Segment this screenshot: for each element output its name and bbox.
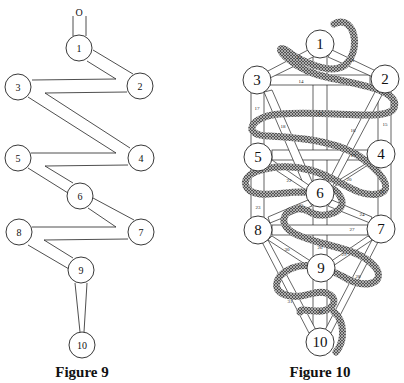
figure-9-sephirah-label: 3 <box>16 82 21 93</box>
figure-9-sephirah-label: 9 <box>79 265 84 276</box>
figure-10-sephirah-label: 10 <box>313 334 328 350</box>
path-number-label: 28 <box>356 274 362 279</box>
figure-9-lightning-flash <box>28 16 134 332</box>
path-number-label: 21 <box>380 189 386 194</box>
path-number-label: 19 <box>351 153 357 158</box>
path-number-label: 14 <box>299 79 305 84</box>
figure-9-sephirah-label: 7 <box>139 227 144 238</box>
figure-10-sephirah-label: 9 <box>317 260 325 276</box>
path-number-label: 18 <box>281 124 287 129</box>
path-number-label: 32 <box>318 309 324 314</box>
figure-10-sephirah-label: 2 <box>381 71 389 87</box>
path-number-label: 31 <box>288 299 294 304</box>
path-number-label: 16 <box>351 128 357 133</box>
figure-9-sephirah-label: 5 <box>16 153 21 164</box>
path-number-label: 29 <box>342 252 348 257</box>
figure-10-sephirah-label: 3 <box>253 72 261 88</box>
path-number-label: 27 <box>350 227 356 232</box>
path-number-label: 15 <box>383 122 389 127</box>
figure-10-sephirah-label: 7 <box>377 221 385 237</box>
path-number-label: 23 <box>256 205 262 210</box>
figure-9-sephirah-label: 10 <box>77 340 87 351</box>
figure-10-sephirah-label: 1 <box>316 36 324 52</box>
diagram-canvas: O 12345678910 12345678910 11121314151617… <box>0 0 404 383</box>
figure-9-sephirah-label: 4 <box>139 153 144 164</box>
figure-9-sephirah-label: 8 <box>17 227 22 238</box>
path-number-label: 25 <box>299 203 305 208</box>
path-number-label: 22 <box>287 178 293 183</box>
figure-9-sephirah-label: 6 <box>78 191 83 202</box>
path-number-label: 11 <box>350 58 355 63</box>
path-number-label: 13 <box>318 111 324 116</box>
figure-9-top-label: O <box>75 7 82 18</box>
figure-10-caption: Figure 10 <box>290 364 351 381</box>
path-number-label: 17 <box>255 106 261 111</box>
path-number-label: 30 <box>285 247 291 252</box>
path-number-label: 26 <box>318 245 324 250</box>
figure-10-sephirah-label: 4 <box>377 146 385 162</box>
figure-9-sephirah-label: 2 <box>138 81 143 92</box>
path-number-label: 12 <box>297 55 303 60</box>
path-number-label: 24 <box>360 212 366 217</box>
figure-10-sephirah-label: 6 <box>316 185 324 201</box>
figure-9-caption: Figure 9 <box>55 364 108 381</box>
path-number-label: 20 <box>347 177 353 182</box>
figure-9-nodes: 12345678910 <box>5 35 154 358</box>
figure-10-sephirah-label: 8 <box>254 222 262 238</box>
figure-9-sephirah-label: 1 <box>77 43 82 54</box>
figure-10-sephirah-label: 5 <box>254 149 262 165</box>
